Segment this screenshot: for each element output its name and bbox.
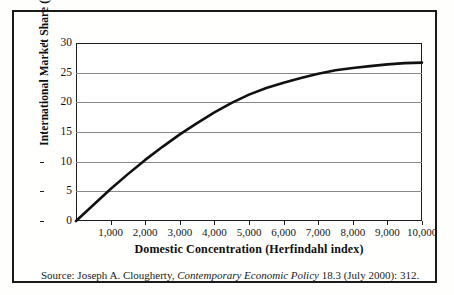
y-tick-label: 25 [46,67,72,79]
x-tick-mark [214,221,215,225]
source-prefix: Source: Joseph A. Clougherty, [41,269,177,281]
y-tick-mark [40,43,44,44]
y-tick-label: 20 [46,96,72,108]
figure-container: International Market Share (%) 30 25 20 … [0,0,454,295]
x-tick-mark [249,221,250,225]
x-tick-mark [387,221,388,225]
y-tick-mark [40,221,44,222]
y-tick-mark [40,102,44,103]
y-tick-mark [40,191,44,192]
y-tick-label: 0 [46,215,72,227]
y-tick-mark [40,132,44,133]
x-tick-mark [145,221,146,225]
plot-area [76,43,422,221]
x-axis-tick-labels: 1,0002,0003,0004,0005,0006,0007,0008,000… [76,226,422,240]
x-tick-label: 10,000 [401,226,443,238]
x-tick-mark [284,221,285,225]
y-tick-mark [40,162,44,163]
y-tick-label: 10 [46,156,72,168]
source-note: Source: Joseph A. Clougherty, Contempora… [41,268,441,282]
x-axis-title: Domestic Concentration (Herfindahl index… [76,242,422,257]
y-tick-label: 5 [46,185,72,197]
x-tick-mark [353,221,354,225]
y-axis-ticks: 30 25 20 15 10 5 0 [44,43,72,221]
source-journal: Contemporary Economic Policy [177,269,319,281]
x-tick-mark [111,221,112,225]
y-tick-label: 30 [46,37,72,49]
x-tick-mark [180,221,181,225]
source-suffix: 18.3 (July 2000): 312. [319,269,419,281]
data-series-line [76,43,422,221]
x-tick-mark [422,221,423,225]
y-tick-label: 15 [46,126,72,138]
figure-outer-border: International Market Share (%) 30 25 20 … [12,10,437,283]
y-tick-mark [40,73,44,74]
x-tick-mark [318,221,319,225]
